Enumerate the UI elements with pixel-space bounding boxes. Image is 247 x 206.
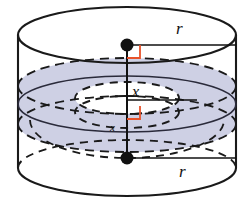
geometry-figure: r r x x [0, 0, 247, 206]
bottom-center-dot [121, 152, 134, 165]
x-label-middle: x [132, 84, 139, 100]
top-center-dot [121, 39, 134, 52]
torus-cylinder-drawing [0, 0, 247, 206]
x-label-lower: x [110, 122, 115, 133]
radius-label-top: r [176, 20, 183, 37]
radius-label-bottom: r [179, 163, 186, 180]
cylinder-bottom-front-arc [18, 168, 236, 196]
